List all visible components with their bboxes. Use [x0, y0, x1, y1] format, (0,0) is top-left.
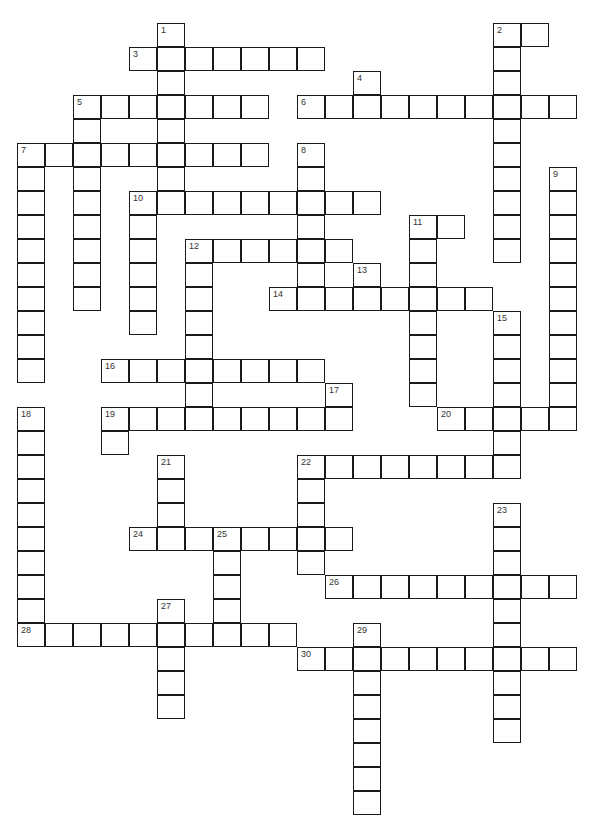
- crossword-cell[interactable]: [493, 359, 521, 383]
- crossword-cell[interactable]: [325, 95, 353, 119]
- crossword-cell[interactable]: [213, 359, 241, 383]
- crossword-cell[interactable]: [493, 527, 521, 551]
- crossword-cell[interactable]: 25: [213, 527, 241, 551]
- crossword-cell[interactable]: [437, 575, 465, 599]
- crossword-cell[interactable]: 11: [409, 215, 437, 239]
- crossword-cell[interactable]: [549, 215, 577, 239]
- crossword-cell[interactable]: [353, 95, 381, 119]
- crossword-cell[interactable]: [381, 95, 409, 119]
- crossword-cell[interactable]: [493, 119, 521, 143]
- crossword-cell[interactable]: [269, 527, 297, 551]
- crossword-cell[interactable]: [269, 47, 297, 71]
- crossword-cell[interactable]: [493, 647, 521, 671]
- crossword-cell[interactable]: [437, 95, 465, 119]
- crossword-cell[interactable]: [297, 551, 325, 575]
- crossword-cell[interactable]: [157, 71, 185, 95]
- crossword-cell[interactable]: [17, 191, 45, 215]
- crossword-cell[interactable]: [213, 143, 241, 167]
- crossword-cell[interactable]: [241, 359, 269, 383]
- crossword-cell[interactable]: [493, 239, 521, 263]
- crossword-cell[interactable]: [325, 455, 353, 479]
- crossword-cell[interactable]: [269, 359, 297, 383]
- crossword-cell[interactable]: 1: [157, 23, 185, 47]
- crossword-cell[interactable]: 10: [129, 191, 157, 215]
- crossword-cell[interactable]: 6: [297, 95, 325, 119]
- crossword-cell[interactable]: [241, 95, 269, 119]
- crossword-cell[interactable]: [297, 407, 325, 431]
- crossword-cell[interactable]: [381, 287, 409, 311]
- crossword-cell[interactable]: [521, 95, 549, 119]
- crossword-cell[interactable]: 16: [101, 359, 129, 383]
- crossword-cell[interactable]: 17: [325, 383, 353, 407]
- crossword-cell[interactable]: [409, 575, 437, 599]
- crossword-cell[interactable]: [381, 455, 409, 479]
- crossword-cell[interactable]: [409, 383, 437, 407]
- crossword-cell[interactable]: [493, 455, 521, 479]
- crossword-cell[interactable]: [129, 143, 157, 167]
- crossword-cell[interactable]: [297, 47, 325, 71]
- crossword-cell[interactable]: [73, 191, 101, 215]
- crossword-cell[interactable]: 13: [353, 263, 381, 287]
- crossword-cell[interactable]: [353, 791, 381, 815]
- crossword-cell[interactable]: [157, 623, 185, 647]
- crossword-cell[interactable]: [521, 647, 549, 671]
- crossword-cell[interactable]: [73, 143, 101, 167]
- crossword-cell[interactable]: 7: [17, 143, 45, 167]
- crossword-cell[interactable]: [325, 647, 353, 671]
- crossword-cell[interactable]: [241, 623, 269, 647]
- crossword-cell[interactable]: [241, 143, 269, 167]
- crossword-cell[interactable]: [17, 503, 45, 527]
- crossword-cell[interactable]: [129, 95, 157, 119]
- crossword-cell[interactable]: 4: [353, 71, 381, 95]
- crossword-cell[interactable]: 27: [157, 599, 185, 623]
- crossword-cell[interactable]: [17, 455, 45, 479]
- crossword-cell[interactable]: [521, 575, 549, 599]
- crossword-cell[interactable]: 14: [269, 287, 297, 311]
- crossword-cell[interactable]: [73, 287, 101, 311]
- crossword-cell[interactable]: 23: [493, 503, 521, 527]
- crossword-cell[interactable]: [45, 623, 73, 647]
- crossword-cell[interactable]: [549, 311, 577, 335]
- crossword-cell[interactable]: [17, 431, 45, 455]
- crossword-cell[interactable]: [185, 191, 213, 215]
- crossword-cell[interactable]: [185, 263, 213, 287]
- crossword-cell[interactable]: [129, 407, 157, 431]
- crossword-cell[interactable]: [157, 695, 185, 719]
- crossword-cell[interactable]: [129, 263, 157, 287]
- crossword-cell[interactable]: [17, 287, 45, 311]
- crossword-cell[interactable]: [437, 647, 465, 671]
- crossword-cell[interactable]: [73, 215, 101, 239]
- crossword-cell[interactable]: [17, 479, 45, 503]
- crossword-cell[interactable]: [409, 359, 437, 383]
- crossword-cell[interactable]: 30: [297, 647, 325, 671]
- crossword-cell[interactable]: [353, 695, 381, 719]
- crossword-cell[interactable]: [297, 167, 325, 191]
- crossword-cell[interactable]: [129, 287, 157, 311]
- crossword-cell[interactable]: [549, 263, 577, 287]
- crossword-cell[interactable]: [409, 311, 437, 335]
- crossword-cell[interactable]: 22: [297, 455, 325, 479]
- crossword-cell[interactable]: [17, 527, 45, 551]
- crossword-cell[interactable]: [437, 287, 465, 311]
- crossword-cell[interactable]: 12: [185, 239, 213, 263]
- crossword-cell[interactable]: [297, 215, 325, 239]
- crossword-cell[interactable]: [493, 167, 521, 191]
- crossword-cell[interactable]: 20: [437, 407, 465, 431]
- crossword-cell[interactable]: [549, 95, 577, 119]
- crossword-cell[interactable]: [493, 719, 521, 743]
- crossword-cell[interactable]: [269, 239, 297, 263]
- crossword-cell[interactable]: [521, 23, 549, 47]
- crossword-cell[interactable]: [353, 719, 381, 743]
- crossword-cell[interactable]: [353, 191, 381, 215]
- crossword-cell[interactable]: [185, 287, 213, 311]
- crossword-cell[interactable]: [157, 647, 185, 671]
- crossword-cell[interactable]: [297, 503, 325, 527]
- crossword-cell[interactable]: [185, 623, 213, 647]
- crossword-cell[interactable]: [409, 647, 437, 671]
- crossword-cell[interactable]: [549, 359, 577, 383]
- crossword-cell[interactable]: [185, 527, 213, 551]
- crossword-cell[interactable]: [409, 95, 437, 119]
- crossword-cell[interactable]: [73, 263, 101, 287]
- crossword-cell[interactable]: [17, 335, 45, 359]
- crossword-cell[interactable]: [493, 143, 521, 167]
